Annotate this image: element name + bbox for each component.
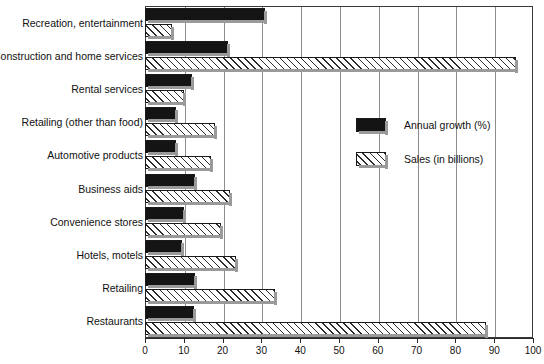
bar-shadow-bottom <box>148 152 178 155</box>
x-tick-80 <box>455 338 456 343</box>
bar-shadow-bottom <box>148 301 277 304</box>
x-tick-10 <box>184 338 185 343</box>
bar-annual-growth <box>145 140 176 153</box>
legend-swatch-annual-growth <box>356 118 386 132</box>
bar-annual-growth <box>145 8 265 21</box>
x-tick-20 <box>223 338 224 343</box>
bar-shadow-bottom <box>148 202 232 205</box>
bar-annual-growth <box>145 207 184 220</box>
bar-shadow-bottom <box>148 168 213 171</box>
legend-label-annual-growth: Annual growth (%) <box>404 119 490 131</box>
legend-swatch-sales <box>356 152 386 166</box>
chart-page: 0102030405060708090100 Recreation, enter… <box>0 0 544 364</box>
bar-sales <box>145 322 486 335</box>
bar-sales <box>145 57 516 70</box>
category-label: Recreation, entertainment <box>22 17 143 29</box>
x-tick-label-70: 70 <box>411 345 422 356</box>
category-label: Business aids <box>78 183 143 195</box>
bar-sales <box>145 123 215 136</box>
x-tick-label-30: 30 <box>256 345 267 356</box>
bar-row: Convenience stores <box>0 205 544 238</box>
x-tick-100 <box>533 338 534 343</box>
bar-row: Restaurants <box>0 305 544 338</box>
bar-sales <box>145 190 230 203</box>
x-tick-label-50: 50 <box>333 345 344 356</box>
x-tick-label-90: 90 <box>489 345 500 356</box>
bar-shadow-bottom <box>148 268 238 271</box>
category-label: Convenience stores <box>50 216 143 228</box>
x-tick-label-20: 20 <box>217 345 228 356</box>
bar-shadow-bottom <box>148 69 518 72</box>
x-tick-label-60: 60 <box>372 345 383 356</box>
category-label: Automotive products <box>47 149 143 161</box>
bar-annual-growth <box>145 74 192 87</box>
bar-shadow-bottom <box>148 334 488 337</box>
bar-annual-growth <box>145 41 228 54</box>
bar-shadow-bottom <box>148 36 174 39</box>
x-tick-0 <box>145 338 146 343</box>
bar-row: Hotels, motels <box>0 238 544 271</box>
bar-sales <box>145 156 211 169</box>
bar-row: Construction and home services <box>0 39 544 72</box>
category-label: Hotels, motels <box>76 249 143 261</box>
bar-shadow-bottom <box>148 53 230 56</box>
x-tick-60 <box>378 338 379 343</box>
x-tick-40 <box>300 338 301 343</box>
bar-sales <box>145 24 172 37</box>
x-tick-label-0: 0 <box>142 345 148 356</box>
bar-annual-growth <box>145 107 176 120</box>
bar-shadow-bottom <box>148 252 184 255</box>
swatch-shadow-bottom <box>359 131 388 134</box>
bar-shadow-bottom <box>148 235 223 238</box>
bar-row: Recreation, entertainment <box>0 6 544 39</box>
bar-shadow-bottom <box>148 318 196 321</box>
bar-sales <box>145 256 236 269</box>
bar-shadow-bottom <box>148 219 186 222</box>
bar-sales <box>145 289 275 302</box>
x-tick-70 <box>417 338 418 343</box>
bar-sales <box>145 90 184 103</box>
category-label: Rental services <box>71 83 143 95</box>
legend-label-sales: Sales (in billions) <box>404 153 483 165</box>
bar-shadow-bottom <box>148 285 197 288</box>
x-tick-label-10: 10 <box>178 345 189 356</box>
x-tick-50 <box>339 338 340 343</box>
bar-shadow-bottom <box>148 102 186 105</box>
category-label: Construction and home services <box>0 50 143 62</box>
bar-shadow-bottom <box>148 86 194 89</box>
swatch-shadow-bottom <box>359 165 388 168</box>
bar-shadow-bottom <box>148 20 267 23</box>
bar-annual-growth <box>145 306 194 319</box>
x-tick-90 <box>494 338 495 343</box>
bar-shadow-bottom <box>148 186 197 189</box>
bar-annual-growth <box>145 273 195 286</box>
x-tick-label-80: 80 <box>450 345 461 356</box>
bar-shadow-bottom <box>148 119 178 122</box>
category-label: Restaurants <box>86 315 143 327</box>
bar-sales <box>145 223 221 236</box>
bar-annual-growth <box>145 174 195 187</box>
bar-annual-growth <box>145 240 182 253</box>
bar-shadow-bottom <box>148 135 217 138</box>
bar-row: Business aids <box>0 172 544 205</box>
x-tick-30 <box>261 338 262 343</box>
category-label: Retailing (other than food) <box>22 116 143 128</box>
category-label: Retailing <box>102 282 143 294</box>
bar-row: Rental services <box>0 72 544 105</box>
bar-row: Retailing <box>0 272 544 305</box>
x-tick-label-100: 100 <box>525 345 542 356</box>
x-tick-label-40: 40 <box>295 345 306 356</box>
